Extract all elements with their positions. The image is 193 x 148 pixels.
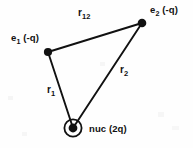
electron-1-charge: (-q) <box>23 32 39 43</box>
nucleus-charge: (2q) <box>109 123 127 134</box>
electron-1-label: e1 (-q) <box>11 33 39 45</box>
electron-2-label: e2 (-q) <box>150 5 178 17</box>
edge-r1-label: r1 <box>47 85 55 98</box>
nucleus-label: nuc (2q) <box>89 124 127 134</box>
edge-r2-line <box>73 23 142 128</box>
electron-2-charge: (-q) <box>162 4 178 15</box>
edge-r1-subscript: 1 <box>51 89 55 98</box>
nucleus-dot <box>69 124 78 133</box>
node-group <box>44 19 146 137</box>
edge-r12-line <box>48 23 142 52</box>
electron-1-subscript: 1 <box>16 37 20 46</box>
edge-r12-label: r12 <box>78 8 91 21</box>
edge-r12-subscript: 12 <box>82 12 91 21</box>
electron-2-dot <box>138 19 147 28</box>
edge-r2-label: r2 <box>120 65 128 78</box>
nucleus-symbol: nuc <box>89 123 106 134</box>
electron-1-dot <box>44 48 52 56</box>
electron-2-subscript: 2 <box>155 9 159 18</box>
charge-diagram-figure: e1 (-q) e2 (-q) r12 r1 r2 nuc (2q) <box>0 0 193 148</box>
edge-r2-subscript: 2 <box>124 69 128 78</box>
